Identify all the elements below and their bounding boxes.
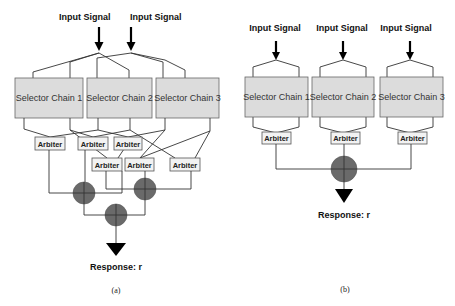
svg-text:Arbiter: Arbiter [95,161,120,170]
selector-chain-a3: Selector Chain 3 [154,78,221,118]
svg-text:Selector Chain 1: Selector Chain 1 [243,92,310,102]
output-arrow-icon [106,243,126,256]
selector-chain-a2: Selector Chain 2 [86,78,153,118]
arbiter-a2: Arbiter [78,137,108,150]
arbiter-a3: Arbiter [114,137,142,150]
input-signal-label-b1: Input Signal [249,23,301,33]
svg-text:Arbiter: Arbiter [173,161,198,170]
input-fanout-wires-a [33,53,185,78]
arbiter-b1: Arbiter [262,132,291,144]
input-signal-label-b2: Input Signal [316,23,368,33]
combiner-node-icon [73,182,95,204]
selector-chain-b1: Selector Chain 1 [243,77,310,117]
arbiter-a6: Arbiter [170,158,200,171]
svg-text:Arbiter: Arbiter [264,134,289,143]
panel-a: Input Signal Input Signal Selector Chain… [15,12,221,295]
input-arrow-icon [127,27,136,51]
selector-chain-a1: Selector Chain 1 [15,78,83,118]
caption-b: (b) [340,285,350,294]
input-signal-label-a1: Input Signal [59,12,111,22]
selector-chain-b3: Selector Chain 3 [378,77,445,117]
svg-text:Arbiter: Arbiter [333,134,358,143]
input-arrow-icon [272,41,280,60]
response-label-b: Response: r [318,210,371,220]
input-arrow-icon [406,41,414,60]
panel-b: Input Signal Input Signal Input Signal [243,23,445,294]
combiner-node-icon [331,156,357,182]
svg-text:Arbiter: Arbiter [81,140,106,149]
input-arrow-icon [95,27,104,51]
arbiter-a1: Arbiter [35,137,65,150]
input-signal-label-a2: Input Signal [130,12,182,22]
selector-chain-b2: Selector Chain 2 [310,77,377,117]
arbiter-b3: Arbiter [398,132,427,144]
arbiter-a5: Arbiter [125,158,154,171]
svg-text:Arbiter: Arbiter [127,161,152,170]
svg-text:Arbiter: Arbiter [38,140,63,149]
svg-text:Selector Chain 2: Selector Chain 2 [86,93,153,103]
svg-text:Selector Chain 1: Selector Chain 1 [16,93,83,103]
caption-a: (a) [112,286,121,295]
diagram-canvas: Input Signal Input Signal Selector Chain… [0,0,455,306]
response-label-a: Response: r [90,262,143,272]
svg-text:Selector Chain 3: Selector Chain 3 [378,92,445,102]
svg-text:Arbiter: Arbiter [116,140,141,149]
input-signal-label-b3: Input Signal [380,23,432,33]
arbiter-a4: Arbiter [92,158,122,171]
combiner-node-icon [134,178,156,200]
svg-text:Selector Chain 2: Selector Chain 2 [310,92,377,102]
input-arrow-icon [339,41,347,60]
combiner-node-icon [105,204,127,226]
output-arrow-icon [335,189,353,203]
arbiter-b2: Arbiter [331,132,360,144]
svg-text:Selector Chain 3: Selector Chain 3 [154,93,221,103]
svg-text:Arbiter: Arbiter [400,134,425,143]
